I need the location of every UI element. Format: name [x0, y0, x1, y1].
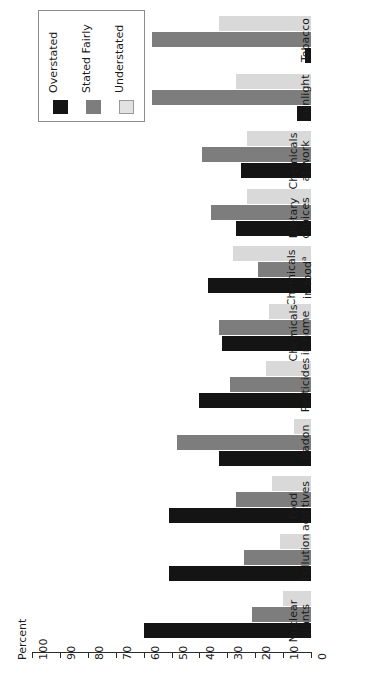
legend-swatch — [86, 100, 101, 114]
axis-tick — [144, 652, 145, 658]
legend-item: Stated Fairly — [78, 11, 111, 121]
bar-overstated — [144, 623, 311, 638]
axis-tick-label: 20 — [260, 620, 273, 660]
axis-title: Percent — [16, 619, 29, 660]
axis-tick — [32, 652, 33, 658]
legend-label: Understated — [113, 25, 126, 93]
axis-tick — [311, 652, 312, 658]
axis-tick — [172, 652, 173, 658]
axis-tick-label: 60 — [149, 620, 162, 660]
legend-swatch — [119, 100, 134, 114]
axis-tick — [116, 652, 117, 658]
axis-tick-label: 0 — [316, 620, 329, 660]
axis-tick-label: 90 — [65, 620, 78, 660]
chart-canvas: TobaccoSunlightChemicalsat workDietarych… — [0, 0, 368, 691]
legend: OverstatedStated FairlyUnderstated — [38, 10, 145, 122]
axis-tick-label: 80 — [93, 620, 106, 660]
bar-understated — [219, 16, 311, 31]
legend-label: Overstated — [47, 32, 60, 93]
axis-tick — [88, 652, 89, 658]
axis-tick-label: 40 — [204, 620, 217, 660]
axis-tick-label: 50 — [177, 620, 190, 660]
bar-stated-fairly — [177, 435, 311, 450]
legend-swatch — [53, 100, 68, 114]
bar-stated-fairly — [152, 90, 311, 105]
axis-tick-label: 70 — [121, 620, 134, 660]
legend-item: Understated — [111, 11, 144, 121]
axis-tick-label: 30 — [232, 620, 245, 660]
legend-item: Overstated — [45, 11, 78, 121]
axis-tick — [255, 652, 256, 658]
axis-tick-label: 10 — [288, 620, 301, 660]
bar-stated-fairly — [152, 32, 311, 47]
bar-overstated — [199, 393, 311, 408]
axis-tick — [283, 652, 284, 658]
legend-label: Stated Fairly — [80, 24, 93, 93]
axis-tick-label: 100 — [37, 620, 50, 660]
axis-tick — [227, 652, 228, 658]
axis-tick — [60, 652, 61, 658]
axis-tick — [199, 652, 200, 658]
